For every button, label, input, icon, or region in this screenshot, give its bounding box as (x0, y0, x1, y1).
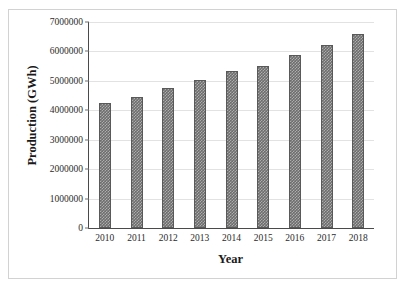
bar (226, 71, 238, 228)
bar-slot: 2012 (152, 22, 184, 228)
bar-slot: 2013 (184, 22, 216, 228)
bar (289, 55, 301, 228)
bar (321, 45, 333, 228)
x-tick-label: 2017 (317, 233, 336, 243)
y-tick-label: 5000000 (50, 76, 83, 86)
bar (131, 97, 143, 228)
bar-slot: 2015 (247, 22, 279, 228)
bar (194, 80, 206, 228)
bar-slot: 2010 (89, 22, 121, 228)
x-tick-label: 2013 (190, 233, 209, 243)
y-tick-label: 4000000 (50, 105, 83, 115)
y-tick-label: 3000000 (50, 135, 83, 145)
bar-slot: 2017 (311, 22, 343, 228)
plot-area: 0100000020000003000000400000050000006000… (88, 22, 374, 229)
bar-slot: 2016 (279, 22, 311, 228)
y-axis-title: Production (GWh) (25, 26, 40, 206)
bar (257, 66, 269, 228)
x-tick-label: 2011 (127, 233, 146, 243)
bar-slot: 2011 (121, 22, 153, 228)
y-tick-label: 6000000 (50, 46, 83, 56)
y-tick-label: 2000000 (50, 164, 83, 174)
chart-figure: Production (GWh) 01000000200000030000004… (0, 0, 407, 290)
bar-slot: 2018 (342, 22, 374, 228)
x-tick-label: 2012 (159, 233, 178, 243)
bar (162, 88, 174, 228)
bar (99, 103, 111, 228)
bar-series: 201020112012201320142015201620172018 (89, 22, 374, 228)
x-tick-label: 2018 (349, 233, 368, 243)
bar-slot: 2014 (216, 22, 248, 228)
x-tick-label: 2016 (285, 233, 304, 243)
bar (352, 34, 364, 228)
x-tick-label: 2015 (254, 233, 273, 243)
y-tick-label: 7000000 (50, 17, 83, 27)
x-axis-title: Year (88, 252, 373, 267)
y-tick-label: 1000000 (50, 194, 83, 204)
x-tick-label: 2014 (222, 233, 241, 243)
x-tick-label: 2010 (95, 233, 114, 243)
y-tick-label: 0 (78, 223, 83, 233)
